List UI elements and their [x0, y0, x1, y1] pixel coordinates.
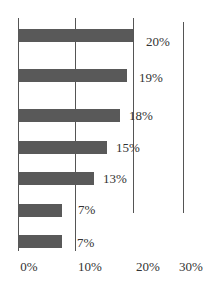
bar-7: [18, 235, 62, 248]
x-tick-20: 20%: [136, 259, 160, 275]
value-label-6: 7%: [78, 203, 95, 216]
value-label-1: 20%: [146, 35, 170, 48]
bar-6: [18, 204, 62, 217]
value-label-5: 13%: [103, 172, 127, 185]
value-label-3: 18%: [129, 109, 153, 122]
bar-1: [18, 29, 133, 42]
x-tick-30: 30%: [179, 259, 203, 275]
x-tick-0: 0%: [20, 259, 37, 275]
value-label-7: 7%: [77, 236, 94, 249]
bar-4: [18, 141, 107, 154]
bar-5: [18, 172, 94, 185]
value-label-4: 15%: [116, 141, 140, 154]
bar-3: [18, 109, 120, 122]
x-tick-10: 10%: [78, 259, 102, 275]
bar-chart: 20% 19% 18% 15% 13% 7% 7% 0% 10% 20% 30%: [0, 0, 210, 286]
gridline-30: [183, 22, 184, 213]
bar-2: [18, 69, 127, 82]
value-label-2: 19%: [139, 71, 163, 84]
gridline-10: [75, 18, 76, 251]
